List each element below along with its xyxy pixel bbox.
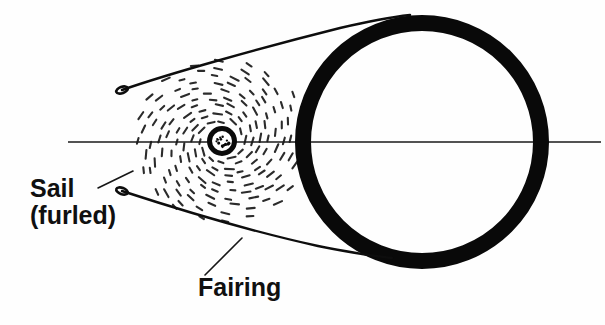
sail-dash-segment — [237, 171, 242, 172]
sail-dash-segment — [241, 70, 248, 75]
sail-dash-segment — [247, 63, 252, 66]
sail-dash-segment — [267, 160, 271, 165]
sail-dash-segment — [247, 152, 252, 157]
sail-dash-segment — [186, 178, 189, 182]
sail-dash-segment — [253, 107, 257, 114]
sail-dash-segment — [228, 157, 236, 159]
sail-dash-segment — [275, 129, 276, 136]
sail-dash-segment — [210, 100, 216, 101]
sail-dash-segment — [275, 89, 278, 94]
sail-dash-segment — [192, 99, 197, 100]
sail-dash-segment — [179, 79, 184, 80]
sail-dash-segment — [199, 177, 206, 183]
sail-dash-segment — [175, 166, 177, 171]
sail-dash-segment — [197, 166, 200, 170]
sail-dash-segment — [209, 157, 213, 161]
sail-dash-segment — [274, 201, 282, 205]
sail-dash-segment — [243, 112, 246, 116]
sail-dash-segment — [195, 149, 196, 156]
sail-dash-segment — [202, 116, 208, 118]
sail-dash-segment — [212, 189, 218, 191]
sail-dash-segment — [189, 168, 192, 173]
sail-dash-segment — [208, 203, 215, 206]
sail-dash-segment — [176, 190, 180, 196]
hub-speckle — [217, 139, 219, 141]
sail-dash-segment — [290, 136, 292, 142]
sail-dash-segment — [263, 199, 269, 201]
diagram-canvas: Sail (furled) Fairing — [0, 0, 605, 325]
sail-dash-segment — [150, 142, 151, 148]
sail-dash-segment — [230, 119, 236, 125]
sail-dash-segment — [213, 182, 220, 185]
sail-dash-segment — [225, 199, 231, 200]
sail-dash-segment — [256, 101, 259, 106]
sail-dash-segment — [216, 104, 223, 106]
sail-dash-segment — [162, 78, 170, 81]
sail-dash-segment — [256, 146, 259, 152]
sail-dash-segment — [263, 149, 266, 154]
sail-dash-segment — [265, 186, 273, 190]
sail-dash-segment — [260, 134, 262, 142]
sail-dash-segment — [276, 175, 281, 179]
sail-dash-segment — [207, 170, 214, 175]
sail-dash-segment — [183, 143, 184, 150]
sail-dash-segment — [214, 68, 222, 70]
sail-dash-segment — [240, 128, 241, 134]
sail-dash-segment — [266, 113, 267, 118]
sail-dash-segment — [199, 128, 205, 133]
sail-dash-segment — [178, 105, 185, 109]
sail-leader-line — [98, 171, 133, 188]
sail-dash-segment — [225, 175, 232, 176]
sail-dash-segment — [192, 125, 197, 131]
sail-dash-segment — [150, 168, 151, 173]
sail-dash-segment — [249, 197, 258, 199]
sail-dash-segment — [193, 88, 198, 89]
sail-dash-segment — [224, 98, 231, 101]
sail-dash-segment — [274, 107, 276, 112]
sail-dash-segment — [138, 112, 143, 119]
sail-dash-segment — [156, 189, 159, 195]
sail-dash-segment — [162, 149, 163, 157]
sail-dash-segment — [146, 94, 152, 99]
sail-dash-segment — [181, 94, 189, 97]
sail-dash-segment — [148, 112, 152, 117]
sail-dash-segment — [238, 150, 243, 154]
hub-speckle — [221, 135, 224, 138]
sail-dash-segment — [208, 122, 215, 124]
fairing-lower-curve — [122, 191, 392, 258]
sail-dash-segment — [259, 171, 265, 175]
fairing-label: Fairing — [198, 273, 281, 301]
sail-dash-segment — [256, 186, 263, 189]
sail-dash-segment — [164, 189, 168, 197]
sail-dash-segment — [288, 186, 293, 190]
sail-dash-segment — [267, 136, 268, 142]
sail-dash-segment — [255, 167, 260, 170]
sail-dash-segment — [250, 91, 254, 95]
sail-dash-segment — [245, 184, 253, 186]
sail-dash-segment — [252, 160, 257, 164]
hub-speckle — [219, 136, 221, 138]
sail-dash-segment — [275, 144, 278, 152]
sail-dash-segment — [242, 175, 250, 177]
hub-speckle — [227, 142, 230, 145]
sail-dash-segment — [242, 101, 247, 106]
sail-dash-segment — [199, 110, 205, 112]
sail-dash-segment — [160, 106, 164, 110]
sail-dash-segment — [277, 185, 284, 190]
sail-dash-segment — [206, 195, 214, 199]
sail-dash-segment — [280, 153, 284, 160]
sail-dash-segment — [169, 170, 171, 175]
spacecraft-hub — [210, 129, 235, 154]
sail-dash-segment — [215, 83, 223, 85]
sail-dash-segment — [250, 125, 251, 131]
sail-dash-segment — [184, 113, 191, 118]
sail-dash-segment — [227, 104, 233, 108]
sail-label: Sail — [30, 174, 74, 202]
sail-dash-segment — [168, 105, 174, 110]
sail-dash-segment — [153, 120, 156, 125]
sail-dash-segment — [202, 159, 205, 163]
sail-dash-segment — [137, 138, 139, 144]
sail-dash-segment — [156, 96, 162, 101]
sail-dash-segment — [226, 112, 231, 115]
sail-dash-segment — [180, 156, 181, 162]
